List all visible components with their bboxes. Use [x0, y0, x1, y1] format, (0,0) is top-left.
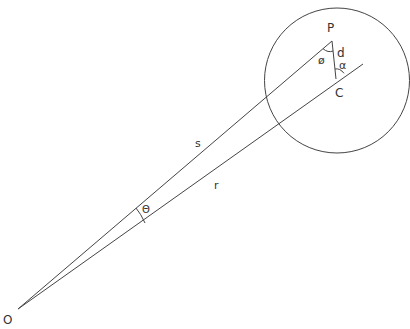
line-s-to-p	[18, 41, 332, 309]
label-c: C	[335, 86, 343, 100]
label-phi: ø	[318, 54, 325, 67]
label-d: d	[337, 46, 345, 60]
geometry-diagram: O P C d ø α Θ s r	[0, 0, 410, 329]
label-p: P	[327, 21, 334, 35]
label-s: s	[195, 137, 201, 150]
label-alpha: α	[339, 59, 346, 72]
label-o: O	[3, 313, 12, 327]
angle-phi-arc	[323, 49, 333, 52]
label-theta: Θ	[142, 204, 150, 215]
segment-d	[332, 41, 336, 79]
line-r-through-c	[18, 64, 363, 309]
label-r: r	[214, 179, 219, 192]
